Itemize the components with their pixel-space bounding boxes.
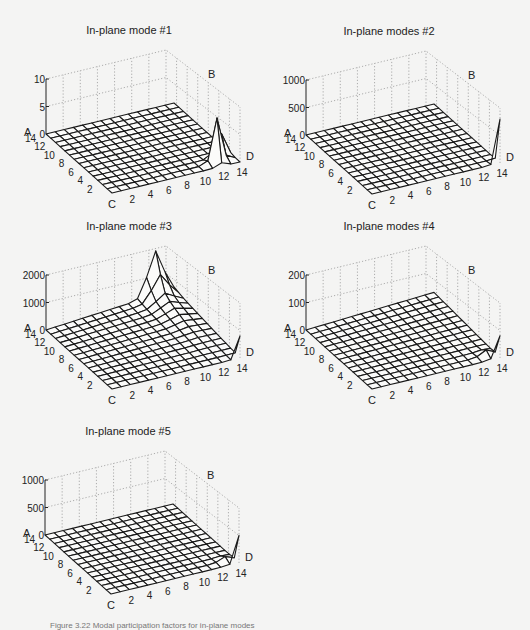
corner-label-b: B [207,469,214,481]
corner-label-b: B [468,69,475,81]
x-tick-label: 6 [166,381,172,392]
z-tick-label: 0 [299,130,305,141]
y-tick-label: 10 [44,346,56,357]
corner-label-d: D [245,551,253,563]
corner-label-c: C [108,394,116,406]
plot-title: In-plane mode #1 [86,24,172,36]
x-tick-label: 12 [478,172,490,183]
y-tick-label: 2 [87,184,93,195]
corner-label-b: B [208,264,215,276]
figure-caption: Figure 3.22 Modal participation factors … [50,621,255,630]
z-tick-label: 10 [34,74,46,85]
y-tick-label: 6 [68,167,74,178]
x-tick-label: 12 [217,572,229,583]
x-tick-label: 6 [426,186,432,197]
surface-plot-1: In-plane mode #10510ABCD2468101214246810… [24,24,254,210]
x-tick-label: 12 [218,171,230,182]
corner-label-c: C [107,599,115,611]
y-tick-label: 6 [67,568,73,579]
z-tick-label: 2000 [23,270,46,281]
y-tick-label: 8 [319,354,325,365]
x-tick-label: 4 [148,385,154,396]
corner-label-d: D [506,151,514,163]
x-tick-label: 2 [130,390,136,401]
y-tick-label: 6 [328,168,334,179]
surface-plot-5: In-plane mode #505001000ABCD246810121424… [22,425,253,611]
y-tick-label: 4 [338,176,344,187]
x-tick-label: 2 [130,194,136,205]
z-tick-label: 500 [288,103,305,114]
x-tick-label: 14 [236,167,248,178]
z-tick-label: 200 [288,270,305,281]
y-tick-label: 12 [294,142,306,153]
z-tick-label: 1000 [22,475,45,486]
y-tick-label: 10 [44,150,56,161]
y-tick-label: 8 [59,158,65,169]
y-tick-label: 2 [347,380,353,391]
x-tick-label: 10 [460,372,472,383]
y-tick-label: 12 [34,337,46,348]
z-tick-label: 500 [27,503,44,514]
x-tick-label: 8 [444,376,450,387]
x-tick-label: 8 [444,181,450,192]
z-tick-label: 0 [299,325,305,336]
y-tick-label: 12 [33,542,45,553]
y-tick-label: 4 [338,371,344,382]
y-tick-label: 4 [78,175,84,186]
x-tick-label: 8 [184,180,190,191]
z-tick-label: 5 [39,102,45,113]
x-tick-label: 2 [390,195,396,206]
z-tick-label: 0 [39,129,45,140]
y-tick-label: 2 [347,185,353,196]
x-tick-label: 4 [408,385,414,396]
x-tick-label: 12 [218,367,230,378]
x-tick-label: 4 [147,590,153,601]
x-tick-label: 4 [408,190,414,201]
corner-label-b: B [208,68,215,80]
x-tick-label: 14 [236,363,248,374]
y-tick-label: 4 [78,371,84,382]
plot-title: In-plane modes #2 [343,25,434,37]
x-tick-label: 6 [426,381,432,392]
z-tick-label: 1000 [23,298,46,309]
y-tick-label: 8 [319,159,325,170]
y-tick-label: 6 [68,363,74,374]
x-tick-label: 10 [200,176,212,187]
x-tick-label: 14 [235,568,247,579]
surface-plot-3: In-plane mode #3010002000ABCD24681012142… [23,220,254,406]
y-tick-label: 10 [304,346,316,357]
x-tick-label: 6 [165,586,171,597]
plot-title: In-plane modes #4 [343,220,434,232]
z-tick-label: 100 [288,298,305,309]
y-tick-label: 14 [285,329,297,340]
x-tick-label: 14 [496,363,508,374]
y-tick-label: 12 [34,141,46,152]
x-tick-label: 4 [148,189,154,200]
corner-label-b: B [468,264,475,276]
y-tick-label: 14 [25,329,37,340]
surface-plot-2: In-plane modes #205001000ABCD24681012142… [283,25,514,211]
corner-label-d: D [246,346,254,358]
x-tick-label: 10 [460,177,472,188]
surface-plot-4: In-plane modes #40100200ABCD246810121424… [284,220,514,406]
z-tick-label: 0 [39,325,45,336]
z-tick-label: 1000 [283,75,306,86]
corner-label-c: C [108,198,116,210]
corner-label-d: D [506,346,514,358]
y-tick-label: 12 [294,337,306,348]
corner-label-c: C [368,394,376,406]
y-tick-label: 8 [58,559,64,570]
x-tick-label: 12 [478,367,490,378]
plot-title: In-plane mode #5 [85,425,171,437]
x-tick-label: 2 [390,390,396,401]
y-tick-label: 6 [328,363,334,374]
x-tick-label: 8 [183,581,189,592]
y-tick-label: 14 [24,534,36,545]
x-tick-label: 10 [199,577,211,588]
z-tick-label: 0 [38,530,44,541]
x-tick-label: 10 [200,372,212,383]
corner-label-d: D [246,150,254,162]
y-tick-label: 2 [87,380,93,391]
y-tick-label: 4 [77,576,83,587]
